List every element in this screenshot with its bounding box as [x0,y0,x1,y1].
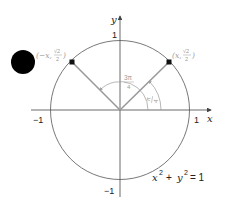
svg-text:4: 4 [153,98,160,103]
svg-text:x: x [152,172,158,183]
y-axis-label: y [110,14,117,25]
circle-equation: x 2 + y 2 = 1 [152,169,205,183]
point-3pi-over-4 [70,60,75,65]
point-pi-over-4-label: (x, √2 2 ) [172,48,195,62]
unit-circle-diagram: y x 1 −1 −1 1 (x, √2 2 ) (−x, √2 2 ) 3π … [0,0,227,205]
svg-text:2: 2 [159,169,163,176]
y-tick-neg: −1 [104,186,114,196]
svg-text:2: 2 [56,56,59,62]
x-tick-pos: 1 [194,115,199,125]
svg-text:2: 2 [184,169,188,176]
y-tick-pos: 1 [112,30,117,40]
svg-text:√2: √2 [183,48,189,54]
svg-text:(x,: (x, [172,51,182,60]
black-dot-marker [11,50,35,74]
point-3pi-over-4-label: (−x, √2 2 ) [36,48,66,62]
svg-text:π: π [145,97,152,102]
x-tick-neg: −1 [33,115,43,125]
svg-text:√2: √2 [54,48,60,54]
svg-text:): ) [62,51,66,60]
svg-text:+: + [166,172,172,183]
radius-3pi-over-4 [72,62,120,110]
arc-pi-over-4 [149,81,161,110]
angle-3pi-over-4-label: 3π 4 [124,74,134,90]
svg-text:2: 2 [185,56,188,62]
svg-text:3π: 3π [124,74,133,81]
svg-text:(−x,: (−x, [36,51,52,60]
svg-text:4: 4 [127,84,131,90]
svg-text:= 1: = 1 [190,172,205,183]
x-axis-label: x [207,113,213,124]
svg-text:y: y [176,172,183,183]
point-pi-over-4 [167,60,172,65]
svg-text:): ) [191,51,195,60]
